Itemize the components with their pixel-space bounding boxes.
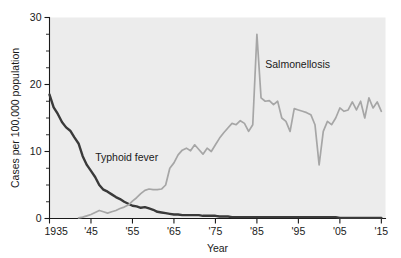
x-tick-label: '95 bbox=[292, 225, 306, 237]
typhoid-fever-series-label: Typhoid fever bbox=[95, 151, 159, 163]
y-axis-title: Cases per 100,000 population bbox=[9, 48, 21, 188]
chart-container: 0102030 1935'45'55'65'75'85'95'05'15 Cas… bbox=[0, 0, 401, 258]
y-tick-label: 10 bbox=[30, 145, 42, 157]
salmonellosis-series-label: Salmonellosis bbox=[265, 58, 330, 70]
y-tick-label: 20 bbox=[30, 78, 42, 90]
y-tick-label: 0 bbox=[36, 212, 42, 224]
x-tick-label: '75 bbox=[209, 225, 223, 237]
x-axis-title: Year bbox=[207, 242, 229, 254]
y-tick-label: 30 bbox=[30, 11, 42, 23]
x-tick-label: '85 bbox=[250, 225, 264, 237]
x-tick-label: '55 bbox=[126, 225, 140, 237]
x-tick-label: 1935 bbox=[45, 225, 69, 237]
x-tick-label: '05 bbox=[333, 225, 347, 237]
x-axis-tick-labels: 1935'45'55'65'75'85'95'05'15 bbox=[45, 225, 389, 237]
x-tick-label: '15 bbox=[375, 225, 389, 237]
epidemiology-line-chart: 0102030 1935'45'55'65'75'85'95'05'15 Cas… bbox=[0, 0, 401, 258]
x-tick-label: '65 bbox=[167, 225, 181, 237]
x-tick-label: '45 bbox=[84, 225, 98, 237]
